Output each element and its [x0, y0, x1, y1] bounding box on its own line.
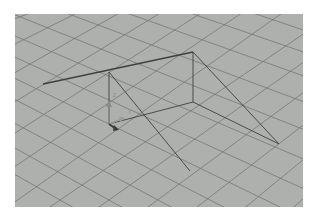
z-axis-label: Z	[113, 92, 116, 98]
3d-viewport[interactable]: Z Y	[15, 14, 303, 207]
y-axis-arrow[interactable]	[109, 116, 125, 124]
x-axis-arrow[interactable]	[109, 124, 119, 131]
transform-gizmo[interactable]: Z Y	[15, 14, 303, 207]
z-axis-arrow[interactable]	[106, 100, 112, 124]
y-axis-label: Y	[128, 109, 132, 115]
